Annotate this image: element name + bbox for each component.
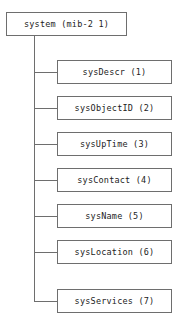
tree-node-sysservices-label: sysServices (7) bbox=[75, 297, 155, 306]
tree-node-syslocation-label: sysLocation (6) bbox=[75, 248, 155, 257]
tree-stub-connector-3 bbox=[34, 144, 57, 145]
tree-stub-connector-6 bbox=[34, 252, 57, 253]
tree-node-sysservices[interactable]: sysServices (7) bbox=[57, 289, 172, 313]
tree-node-sysobjectid[interactable]: sysObjectID (2) bbox=[57, 96, 172, 120]
tree-node-syslocation[interactable]: sysLocation (6) bbox=[57, 240, 172, 264]
tree-stub-connector-2 bbox=[34, 108, 57, 109]
tree-node-system-label: system (mib-2 1) bbox=[24, 20, 109, 29]
tree-stub-connector-7 bbox=[34, 301, 57, 302]
tree-stub-connector-1 bbox=[34, 72, 57, 73]
tree-trunk-connector bbox=[34, 36, 35, 302]
tree-stub-connector-4 bbox=[34, 180, 57, 181]
tree-node-syscontact-label: sysContact (4) bbox=[77, 176, 151, 185]
tree-node-system[interactable]: system (mib-2 1) bbox=[6, 12, 127, 36]
tree-node-sysdescr-label: sysDescr (1) bbox=[83, 68, 147, 77]
mib-system-tree-diagram: system (mib-2 1) sysDescr (1) sysObjectI… bbox=[0, 0, 181, 328]
tree-node-sysuptime[interactable]: sysUpTime (3) bbox=[57, 132, 172, 156]
tree-node-sysobjectid-label: sysObjectID (2) bbox=[75, 104, 155, 113]
tree-node-sysdescr[interactable]: sysDescr (1) bbox=[57, 60, 172, 84]
tree-stub-connector-5 bbox=[34, 216, 57, 217]
tree-node-syscontact[interactable]: sysContact (4) bbox=[57, 168, 172, 192]
tree-node-sysname[interactable]: sysName (5) bbox=[57, 204, 172, 228]
tree-node-sysuptime-label: sysUpTime (3) bbox=[80, 140, 149, 149]
tree-node-sysname-label: sysName (5) bbox=[85, 212, 144, 221]
